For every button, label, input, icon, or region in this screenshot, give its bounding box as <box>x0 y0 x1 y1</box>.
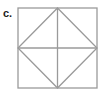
diagram-square <box>0 0 103 92</box>
